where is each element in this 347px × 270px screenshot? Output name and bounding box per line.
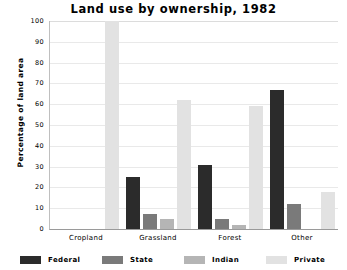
bar-group <box>266 21 338 229</box>
bar <box>270 90 284 229</box>
bar <box>321 192 335 229</box>
bar <box>198 165 212 229</box>
legend-label: Indian <box>212 256 239 264</box>
legend-swatch-icon <box>20 256 41 264</box>
y-axis-tick-label: 20 <box>20 184 44 191</box>
y-axis-tick-label: 70 <box>20 80 44 87</box>
legend-label: Private <box>294 256 325 264</box>
plot-area: CroplandGrasslandForestOther <box>49 21 338 230</box>
x-axis-tick-label: Forest <box>194 234 266 242</box>
bar <box>249 106 263 229</box>
chart-title: Land use by ownership, 1982 <box>0 2 347 16</box>
x-axis-tick-label: Cropland <box>50 234 122 242</box>
bar-group <box>122 21 194 229</box>
y-axis-tick-label: 80 <box>20 60 44 67</box>
legend-item[interactable]: Indian <box>184 254 239 266</box>
y-axis-tick-label: 40 <box>20 143 44 150</box>
legend-item[interactable]: Private <box>266 254 325 266</box>
bar <box>287 204 301 229</box>
bar <box>143 214 157 229</box>
y-axis-tick-label: 50 <box>20 122 44 129</box>
bar <box>177 100 191 229</box>
x-axis-tick-label: Other <box>266 234 338 242</box>
legend-swatch-icon <box>266 256 287 264</box>
legend-label: State <box>130 256 153 264</box>
y-axis-tick-label: 90 <box>20 39 44 46</box>
y-axis-tick-label: 30 <box>20 164 44 171</box>
bar <box>232 225 246 229</box>
y-axis-tick-label: 0 <box>20 226 44 233</box>
legend-swatch-icon <box>102 256 123 264</box>
bar-group <box>194 21 266 229</box>
bar <box>160 219 174 229</box>
y-axis-tick-label: 60 <box>20 101 44 108</box>
y-axis-tick-label: 100 <box>20 18 44 25</box>
bar-group <box>50 21 122 229</box>
x-axis-tick-label: Grassland <box>122 234 194 242</box>
legend-swatch-icon <box>184 256 205 264</box>
bar <box>105 21 119 229</box>
chart-container: Land use by ownership, 1982 Percentage o… <box>0 0 347 270</box>
legend-item[interactable]: State <box>102 254 153 266</box>
bar <box>126 177 140 229</box>
legend-label: Federal <box>48 256 80 264</box>
legend-item[interactable]: Federal <box>20 254 80 266</box>
chart-legend: FederalStateIndianPrivate <box>20 254 347 266</box>
y-axis-tick-label: 10 <box>20 205 44 212</box>
bar <box>215 219 229 229</box>
